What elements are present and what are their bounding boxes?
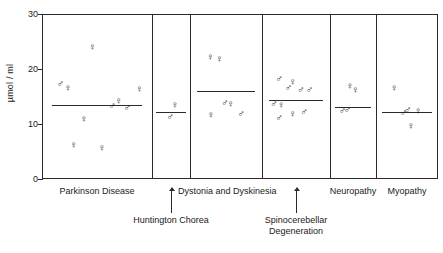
scatter-chart-figure: µmol / ml 30 20 10 0 ♀♂♀♀♀♂♂♀♀♀♀♂♀♀♂♀♀♂♂… — [0, 0, 443, 253]
data-point-female: ♀ — [226, 99, 236, 109]
label-leader-arrow-icon — [294, 187, 300, 191]
data-point-male: ♂ — [122, 103, 132, 113]
panel-divider — [190, 14, 191, 179]
data-point-female: ♀ — [69, 140, 79, 150]
data-point-female: ♀ — [97, 143, 107, 153]
data-point-female: ♀ — [389, 83, 399, 93]
data-point-male: ♂ — [274, 113, 284, 123]
y-axis-label: µmol / ml — [5, 49, 15, 117]
group-label-huntington-chorea: Huntington Chorea — [116, 215, 226, 226]
data-point-female: ♀ — [134, 84, 144, 94]
label-leader-line — [171, 191, 172, 213]
data-point-female: ♀ — [79, 114, 89, 124]
data-point-male: ♂ — [343, 105, 353, 115]
y-tick-label-10: 10 — [18, 120, 38, 129]
group-label-myopathy: Myopathy — [364, 186, 443, 197]
data-point-female: ♀ — [413, 106, 423, 116]
data-point-female: ♀ — [63, 83, 73, 93]
panel-divider — [262, 14, 263, 179]
plot-frame — [42, 14, 438, 179]
data-point-female: ♀ — [87, 42, 97, 52]
data-point-female: ♀ — [288, 109, 298, 119]
data-point-female: ♀ — [276, 100, 286, 110]
data-point-male: ♂ — [304, 85, 314, 95]
y-tick-label-20: 20 — [18, 65, 38, 74]
data-point-male: ♂ — [299, 107, 309, 117]
data-point-male: ♂ — [165, 112, 175, 122]
y-tick-label-0: 0 — [18, 175, 38, 184]
y-tick-label-30: 30 — [18, 10, 38, 19]
group-label-parkinson-disease: Parkinson Disease — [30, 186, 164, 197]
group-label-spinocerebellar-degeneration: Spinocerebellar Degeneration — [241, 215, 351, 237]
data-point-male: ♂ — [236, 109, 246, 119]
data-point-female: ♀ — [406, 121, 416, 131]
group-label-dystonia-and-dyskinesia: Dystonia and Dyskinesia — [178, 186, 274, 197]
data-point-male: ♂ — [399, 108, 409, 118]
data-point-female: ♀ — [206, 110, 216, 120]
panel-divider — [152, 14, 153, 179]
mean-line — [197, 91, 255, 92]
y-tick-mark-0 — [38, 179, 43, 180]
data-point-male: ♂ — [284, 83, 294, 93]
data-point-female: ♀ — [350, 85, 360, 95]
data-point-male: ♂ — [107, 101, 117, 111]
label-leader-arrow-icon — [169, 187, 175, 191]
panel-divider — [330, 14, 331, 179]
data-point-female: ♀ — [170, 100, 180, 110]
data-point-female: ♀ — [214, 54, 224, 64]
label-leader-line — [296, 191, 297, 213]
panel-divider — [376, 14, 377, 179]
